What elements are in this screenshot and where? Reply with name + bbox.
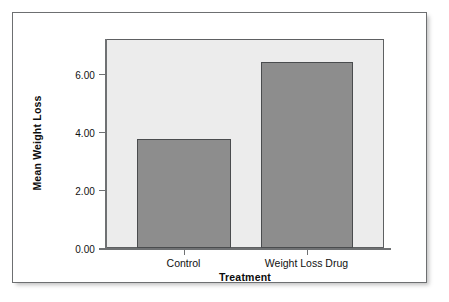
- y-tick-label-1: 2.00: [75, 185, 95, 196]
- bar-control: [137, 139, 231, 248]
- x-category-label-control: Control: [167, 257, 201, 269]
- y-tick-label-3: 6.00: [75, 69, 95, 80]
- bar-weight-loss-drug: [261, 62, 353, 248]
- y-tick-label-2: 4.00: [75, 127, 95, 138]
- y-tick-1: 2.00: [99, 190, 105, 192]
- y-axis-line: [105, 39, 107, 249]
- y-tick-mark-0: [99, 248, 105, 250]
- figure-root: 0.00 2.00 4.00 6.00 Control Weight Loss …: [0, 0, 449, 302]
- y-tick-3: 6.00: [99, 74, 105, 76]
- x-tick-mark-0: [184, 249, 186, 255]
- y-tick-label-0: 0.00: [75, 243, 95, 254]
- y-tick-mark-2: [99, 132, 105, 134]
- x-tick-mark-1: [307, 249, 309, 255]
- y-tick-mark-1: [99, 190, 105, 192]
- y-tick-mark-3: [99, 74, 105, 76]
- x-axis-title: Treatment: [219, 271, 271, 283]
- y-axis-title: Mean Weight Loss: [31, 95, 43, 190]
- x-category-label-weight-loss-drug: Weight Loss Drug: [265, 257, 348, 269]
- chart-frame: 0.00 2.00 4.00 6.00 Control Weight Loss …: [12, 12, 427, 283]
- y-tick-0: 0.00: [99, 248, 105, 250]
- y-tick-2: 4.00: [99, 132, 105, 134]
- x-axis-line: [99, 248, 391, 250]
